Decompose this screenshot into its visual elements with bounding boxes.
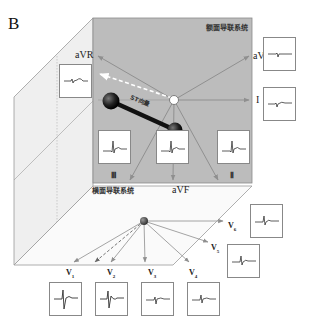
ecg-trace-icon: [142, 283, 173, 315]
ecg-box-v3: [141, 282, 174, 316]
ecg-box-avf: [156, 130, 189, 164]
ecg-box-v6: [250, 204, 283, 238]
lead-label-iii: Ⅲ: [111, 171, 117, 180]
ecg-trace-icon: [157, 131, 188, 163]
ecg-box-iii: [98, 130, 131, 164]
lead-label-i: I: [256, 94, 259, 105]
ecg-box-v5: [227, 244, 260, 278]
ecg-trace-icon: [264, 88, 295, 120]
ecg-box-avr: [59, 64, 92, 98]
frontal-plane-label: 额面导联系统: [206, 22, 248, 32]
frontal-origin: [170, 96, 179, 105]
ecg-box-v1: [49, 282, 82, 316]
ecg-trace-icon: [50, 283, 81, 315]
ecg-trace-icon: [218, 131, 249, 163]
lead-label-v1: V1: [66, 268, 74, 279]
horizontal-plane-label: 横面导联系统: [92, 185, 134, 195]
panel-label: B: [8, 14, 19, 34]
ecg-box-v4: [187, 282, 220, 316]
ecg-trace-icon: [264, 38, 295, 70]
lead-label-ii: Ⅱ: [230, 171, 234, 180]
lead-label-v3: V3: [148, 268, 156, 279]
ecg-trace-icon: [251, 205, 282, 237]
ecg-trace-icon: [96, 283, 127, 315]
ecg-trace-icon: [188, 283, 219, 315]
horizontal-origin: [140, 217, 148, 225]
ecg-trace-icon: [60, 65, 91, 97]
ecg-box-ii: [217, 130, 250, 164]
lead-label-avf: aVF: [172, 184, 189, 195]
lead-label-v2: V2: [107, 268, 115, 279]
ecg-box-v2: [95, 282, 128, 316]
ecg-trace-icon: [99, 131, 130, 163]
lead-label-v4: V4: [189, 268, 197, 279]
lead-label-v5: V5: [211, 243, 219, 254]
ecg-box-avl: [263, 37, 296, 71]
lead-label-avr: aVR: [75, 49, 93, 60]
ecg-box-i: [263, 87, 296, 121]
ecg-trace-icon: [228, 245, 259, 277]
lead-label-v6: V6: [228, 221, 236, 232]
